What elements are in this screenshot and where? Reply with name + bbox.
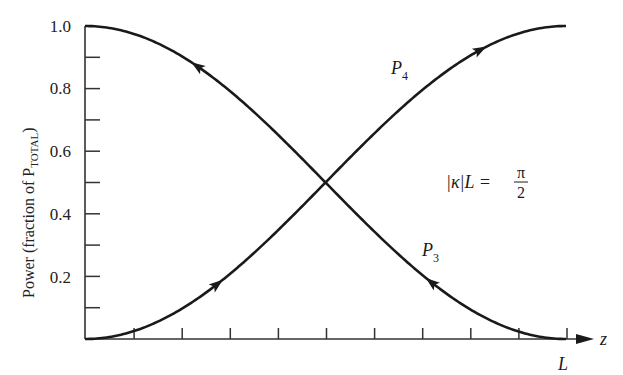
y-tick-label-0.2: 0.2 <box>50 268 71 287</box>
x-axis-title: z <box>599 329 607 349</box>
y-tick-labels: 1.0 0.8 0.6 0.4 0.2 <box>50 17 72 287</box>
coupled-mode-power-chart: 1.0 0.8 0.6 0.4 0.2 Power (fraction of P… <box>0 0 623 375</box>
y-axis-title: Power (fraction of PTOTAL) <box>20 128 40 298</box>
curve-p3 <box>85 26 566 339</box>
series-label-p4: P4 <box>390 58 408 83</box>
y-ticks <box>85 57 100 307</box>
coupling-annotation: |κ|L = π 2 <box>446 164 528 201</box>
x-axis-arrow-icon <box>576 334 594 344</box>
y-axis-title-close: ) <box>20 128 38 133</box>
y-tick-label-1.0: 1.0 <box>50 17 71 36</box>
x-end-label: L <box>557 354 568 374</box>
annotation-numerator: π <box>517 164 525 181</box>
annotation-lhs: |κ|L = <box>446 172 491 192</box>
y-tick-label-0.8: 0.8 <box>50 79 71 98</box>
x-ticks <box>134 328 567 339</box>
y-tick-label-0.4: 0.4 <box>50 205 72 224</box>
series-label-p3: P3 <box>421 240 439 265</box>
y-axis-title-main: Power (fraction of P <box>20 168 38 298</box>
annotation-denominator: 2 <box>517 184 525 201</box>
y-axis-title-sub: TOTAL <box>28 133 40 168</box>
y-tick-label-0.6: 0.6 <box>50 142 71 161</box>
p4-arrow-high-icon <box>472 42 489 57</box>
